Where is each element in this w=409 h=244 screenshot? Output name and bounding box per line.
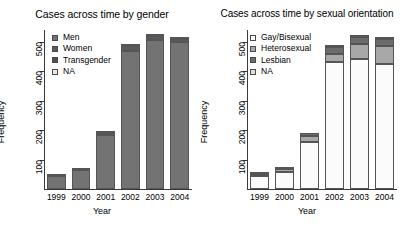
x-axis-line-right	[247, 189, 397, 190]
chart-panel-gender: Cases across time by gender Frequency 10…	[0, 0, 204, 244]
stacked-bar[interactable]	[275, 167, 294, 189]
bar-segment[interactable]	[121, 51, 140, 189]
x-tick-label: 2001	[297, 192, 322, 202]
stacked-bar[interactable]	[146, 34, 165, 189]
bar-segment[interactable]	[375, 39, 394, 46]
bar-slot[interactable]	[167, 30, 192, 189]
legend-swatch-icon	[52, 57, 58, 63]
legend-item: Gay/Bisexual	[250, 32, 311, 43]
x-axis-line-left	[44, 189, 192, 190]
legend-item: NA	[52, 66, 111, 77]
bar-segment[interactable]	[350, 44, 369, 59]
chart-page: Cases across time by gender Frequency 10…	[0, 0, 409, 244]
bar-slot[interactable]	[372, 30, 397, 189]
legend-swatch-icon	[250, 57, 256, 63]
bar-segment[interactable]	[350, 59, 369, 189]
stacked-bar[interactable]	[250, 172, 269, 189]
legend-swatch-icon	[52, 46, 58, 52]
bar-slot[interactable]	[143, 30, 168, 189]
x-tick-label: 1999	[44, 192, 69, 202]
y-tick-label: 100	[34, 160, 44, 174]
bar-segment[interactable]	[72, 170, 91, 189]
x-tick-labels-right: 199920002001200220032004	[247, 192, 397, 202]
bar-segment[interactable]	[325, 54, 344, 63]
stacked-bar[interactable]	[96, 131, 115, 189]
x-tick-label: 2002	[322, 192, 347, 202]
y-axis-title-left: Frequency	[0, 101, 6, 144]
legend-label: NA	[261, 66, 273, 77]
x-axis-title-left: Year	[0, 206, 204, 216]
y-tick-label: 300	[237, 101, 247, 115]
legend-swatch-icon	[52, 69, 58, 75]
chart-panel-orientation: Cases across time by sexual orientation …	[205, 0, 409, 244]
y-tick-label: 400	[34, 71, 44, 85]
y-tick-label: 300	[34, 101, 44, 115]
legend-label: Men	[63, 32, 80, 43]
legend-item: Men	[52, 32, 111, 43]
legend-label: Transgender	[63, 55, 111, 66]
legend-label: Gay/Bisexual	[261, 32, 311, 43]
stacked-bar[interactable]	[121, 44, 140, 189]
bar-segment[interactable]	[375, 46, 394, 64]
bar-segment[interactable]	[96, 135, 115, 189]
y-tick-label: 200	[237, 130, 247, 144]
y-tick-label: 400	[237, 71, 247, 85]
legend-label: Heterosexual	[261, 43, 311, 54]
legend-swatch-icon	[250, 69, 256, 75]
y-tick-label: 200	[34, 130, 44, 144]
bar-segment[interactable]	[325, 62, 344, 189]
y-tick-label: 100	[237, 160, 247, 174]
x-tick-label: 2000	[272, 192, 297, 202]
x-tick-label: 2001	[93, 192, 118, 202]
bar-segment[interactable]	[250, 176, 269, 189]
x-tick-label: 2000	[69, 192, 94, 202]
x-tick-label: 2003	[347, 192, 372, 202]
stacked-bar[interactable]	[170, 37, 189, 189]
stacked-bar[interactable]	[375, 37, 394, 189]
bar-segment[interactable]	[275, 172, 294, 189]
bar-segment[interactable]	[350, 37, 369, 44]
legend-swatch-icon	[250, 46, 256, 52]
x-tick-label: 2004	[167, 192, 192, 202]
legend-swatch-icon	[250, 35, 256, 41]
legend-label: NA	[63, 66, 75, 77]
legend-orientation: Gay/BisexualHeterosexualLesbianNA	[250, 32, 311, 78]
x-tick-label: 2002	[118, 192, 143, 202]
legend-item: Heterosexual	[250, 43, 311, 54]
bar-segment[interactable]	[146, 40, 165, 189]
stacked-bar[interactable]	[325, 45, 344, 189]
y-tick-label: 500	[237, 42, 247, 56]
stacked-bar[interactable]	[350, 35, 369, 189]
stacked-bar[interactable]	[300, 133, 319, 189]
y-tick-label: 500	[34, 42, 44, 56]
bar-segment[interactable]	[300, 142, 319, 189]
bar-segment[interactable]	[47, 176, 66, 189]
legend-item: Transgender	[52, 55, 111, 66]
bar-segment[interactable]	[375, 64, 394, 189]
bar-segment[interactable]	[170, 42, 189, 189]
bar-slot[interactable]	[118, 30, 143, 189]
bar-slot[interactable]	[347, 30, 372, 189]
legend-label: Lesbian	[261, 55, 291, 66]
stacked-bar[interactable]	[47, 174, 66, 189]
x-axis-title-right: Year	[205, 206, 409, 216]
bar-slot[interactable]	[322, 30, 347, 189]
y-axis-title-right: Frequency	[199, 101, 209, 144]
stacked-bar[interactable]	[72, 168, 91, 189]
x-tick-label: 2003	[143, 192, 168, 202]
chart-title-gender: Cases across time by gender	[0, 8, 204, 20]
x-tick-labels-left: 199920002001200220032004	[44, 192, 192, 202]
legend-item: Women	[52, 43, 111, 54]
legend-item: Lesbian	[250, 55, 311, 66]
legend-item: NA	[250, 66, 311, 77]
legend-label: Women	[63, 43, 92, 54]
x-tick-label: 2004	[372, 192, 397, 202]
legend-swatch-icon	[52, 35, 58, 41]
x-tick-label: 1999	[247, 192, 272, 202]
chart-title-orientation: Cases across time by sexual orientation	[205, 8, 409, 19]
legend-gender: MenWomenTransgenderNA	[52, 32, 111, 78]
